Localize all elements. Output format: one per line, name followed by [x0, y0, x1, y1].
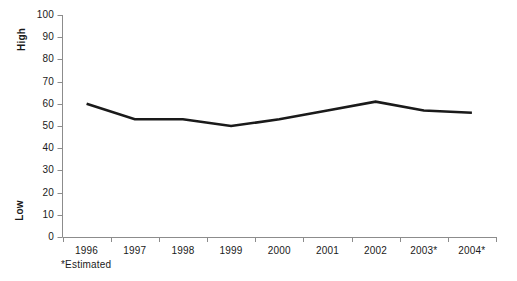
x-axis-tick-label: 1996	[63, 245, 111, 256]
x-axis-tick-label: 1997	[111, 245, 159, 256]
x-axis-tick-label: 1999	[207, 245, 255, 256]
line-chart: High Low 0102030405060708090100 19961997…	[0, 0, 517, 281]
x-axis-tick-labels: 19961997199819992000200120022003*2004*	[0, 0, 517, 281]
x-axis-tick-label: 2002	[352, 245, 400, 256]
x-axis-tick-label: 2004*	[448, 245, 496, 256]
x-axis-tick-label: 2003*	[400, 245, 448, 256]
x-axis-tick-label: 1998	[159, 245, 207, 256]
x-axis-tick-label: 2000	[255, 245, 303, 256]
x-axis-tick-label: 2001	[303, 245, 351, 256]
chart-footnote: *Estimated	[61, 259, 111, 270]
